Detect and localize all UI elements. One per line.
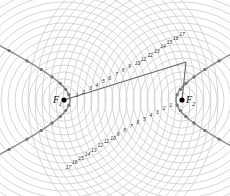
branch-point xyxy=(184,82,187,85)
upper-circle-label: 14 xyxy=(160,43,166,49)
branch-point xyxy=(217,137,220,140)
right-branch-lower xyxy=(176,100,230,169)
lower-circle-label: 8 xyxy=(123,127,126,133)
lower-circle-label: 13 xyxy=(91,147,97,153)
upper-circle-label: 9 xyxy=(128,63,131,69)
upper-circle-label: 16 xyxy=(173,35,179,41)
branch-point xyxy=(50,75,53,78)
branch-point xyxy=(203,68,206,71)
branch-point xyxy=(179,88,182,91)
upper-circle-label: 2 xyxy=(81,89,85,95)
branch-point xyxy=(50,121,53,124)
lower-circle-label: 3 xyxy=(156,109,159,115)
branch-point xyxy=(64,88,67,91)
lower-circle-label: 10 xyxy=(110,135,116,141)
focus-subscript-1: 1 xyxy=(59,101,62,107)
branch-point xyxy=(179,109,182,112)
upper-circle-label: 4 xyxy=(96,82,99,88)
upper-circle-label: 13 xyxy=(154,48,160,54)
upper-circle-label: 7 xyxy=(115,71,118,77)
lower-circle-label: 14 xyxy=(85,151,91,157)
branch-point xyxy=(59,115,62,118)
branch-point xyxy=(64,109,67,112)
branch-point xyxy=(192,121,195,124)
lower-circle-label: 5 xyxy=(143,116,146,122)
upper-circle-label: 17 xyxy=(179,31,185,37)
upper-circle-label: 10 xyxy=(135,60,141,66)
upper-circle-label: 12 xyxy=(148,52,154,58)
upper-circle-label: 6 xyxy=(109,75,112,81)
branch-point xyxy=(40,68,43,71)
lower-circle-label: 4 xyxy=(150,112,153,118)
branch-point xyxy=(203,129,206,132)
lower-circle-label: 11 xyxy=(104,138,109,144)
branch-point xyxy=(67,93,70,96)
focus-subscript-2: 2 xyxy=(192,101,195,107)
branch-point xyxy=(25,59,28,62)
branch-point xyxy=(7,49,10,52)
branch-point xyxy=(184,115,187,118)
branch-point xyxy=(40,129,43,132)
focus-point-1 xyxy=(61,97,66,102)
foci: F1F2 xyxy=(52,94,195,107)
lower-circle-label: 1 xyxy=(169,102,172,108)
circle-f2 xyxy=(63,0,230,196)
lower-circle-label: 15 xyxy=(78,155,84,161)
branch-point xyxy=(192,75,195,78)
lower-circle-label: 6 xyxy=(136,119,139,125)
circle-f2 xyxy=(77,0,230,196)
branch-point xyxy=(25,137,28,140)
circle-f1 xyxy=(0,0,197,196)
hyperbola-diagram: 1234567891011121314151617123456789101112… xyxy=(0,0,230,196)
lower-circle-label: 9 xyxy=(117,131,120,137)
lower-circle-label: 17 xyxy=(66,164,72,170)
upper-circle-label: 3 xyxy=(89,85,92,91)
right-branch-upper xyxy=(176,31,230,100)
branch-point xyxy=(67,104,70,107)
upper-circle-label: 5 xyxy=(102,78,105,84)
upper-circle-label: 1 xyxy=(76,92,79,98)
upper-circle-label: 15 xyxy=(167,39,173,45)
lower-circle-label: 16 xyxy=(72,159,78,165)
lower-circle-label: 7 xyxy=(130,123,133,129)
lower-circle-label: 12 xyxy=(97,142,103,148)
branch-point xyxy=(175,93,178,96)
circle-f1 xyxy=(0,2,162,196)
branch-point xyxy=(59,82,62,85)
circle-f1 xyxy=(0,0,176,196)
lower-circle-label: 2 xyxy=(162,105,166,111)
branch-point xyxy=(7,148,10,151)
branch-point xyxy=(217,59,220,62)
branch-point xyxy=(175,104,178,107)
circle-f2 xyxy=(112,30,230,170)
upper-circle-label: 11 xyxy=(141,56,146,62)
upper-circle-label: 8 xyxy=(122,67,125,73)
focus-point-2 xyxy=(179,97,184,102)
